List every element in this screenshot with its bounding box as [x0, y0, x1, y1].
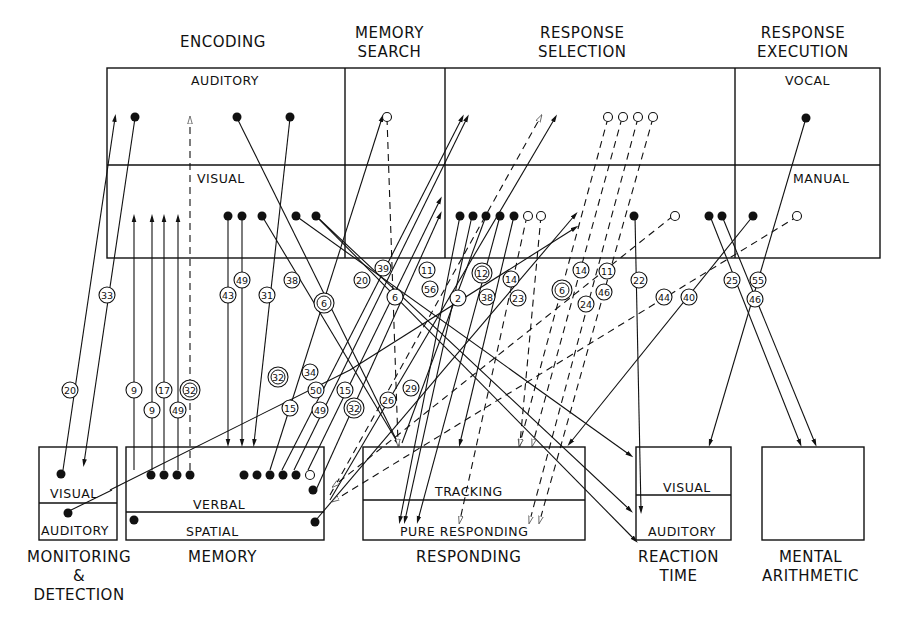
svg-text:14: 14: [505, 274, 517, 285]
svg-text:9: 9: [149, 405, 155, 416]
study-number-badge: 38: [479, 289, 495, 305]
responding-title: RESPONDING: [416, 548, 521, 567]
rt-auditory-label: AUDITORY: [648, 524, 716, 539]
svg-text:44: 44: [658, 292, 670, 303]
svg-text:49: 49: [236, 275, 248, 286]
study-number-badge: 2: [450, 290, 466, 306]
study-number-badge: 24: [578, 296, 594, 312]
study-number-badge: 20: [354, 272, 370, 288]
svg-text:32: 32: [184, 385, 196, 396]
study-number-badge: 32: [268, 367, 288, 387]
mental-arithmetic-title: MENTAL ARITHMETIC: [762, 548, 859, 586]
study-number-badge: 32: [344, 398, 364, 418]
processing-stage-matrix: [107, 68, 880, 258]
svg-text:34: 34: [304, 367, 316, 378]
memory-title: MEMORY: [188, 548, 257, 567]
svg-text:31: 31: [261, 290, 273, 301]
study-number-badge: 15: [337, 382, 353, 398]
svg-text:46: 46: [598, 287, 610, 298]
study-number-badge: 6: [314, 293, 334, 313]
rt-visual-label: VISUAL: [663, 480, 711, 495]
svg-text:33: 33: [101, 290, 113, 301]
study-number-badge: 43: [220, 287, 236, 303]
stage-memory-search: MEMORY SEARCH: [355, 24, 424, 62]
study-number-badge: 6: [387, 289, 403, 305]
row-auditory: AUDITORY: [191, 73, 259, 88]
responding-pure-label: PURE RESPONDING: [400, 524, 528, 539]
study-number-badge: 34: [302, 364, 318, 380]
memory-verbal-label: VERBAL: [193, 497, 245, 512]
monitoring-title: MONITORING & DETECTION: [27, 548, 131, 605]
svg-text:22: 22: [633, 275, 645, 286]
study-number-badge: 11: [419, 262, 435, 278]
svg-text:55: 55: [752, 275, 764, 286]
study-number-badge: 20: [62, 382, 78, 398]
svg-text:25: 25: [726, 275, 738, 286]
study-number-badge: 17: [156, 382, 172, 398]
study-number-labels: 3320991749324349313863234501549153226292…: [62, 260, 766, 418]
study-number-badge: 15: [282, 400, 298, 416]
svg-text:38: 38: [481, 292, 493, 303]
study-number-badge: 40: [681, 289, 697, 305]
svg-text:2: 2: [455, 293, 461, 304]
row-visual: VISUAL: [197, 171, 245, 186]
responding-tracking-label: TRACKING: [435, 484, 503, 499]
study-number-badge: 39: [375, 260, 391, 276]
study-number-badge: 50: [308, 382, 324, 398]
study-number-badge: 44: [656, 289, 672, 305]
study-number-badge: 22: [631, 272, 647, 288]
mental-arithmetic-box: [762, 447, 864, 540]
svg-text:15: 15: [339, 385, 351, 396]
svg-text:20: 20: [356, 275, 368, 286]
study-number-badge: 55: [750, 272, 766, 288]
study-number-badge: 31: [259, 287, 275, 303]
svg-text:23: 23: [512, 293, 524, 304]
svg-text:46: 46: [749, 294, 761, 305]
study-number-badge: 14: [573, 262, 589, 278]
svg-text:12: 12: [476, 268, 488, 279]
row-manual: MANUAL: [793, 171, 849, 186]
study-number-badge: 9: [126, 382, 142, 398]
stage-response-selection: RESPONSE SELECTION: [538, 24, 626, 62]
svg-text:11: 11: [601, 266, 613, 277]
svg-text:14: 14: [575, 265, 587, 276]
study-number-badge: 49: [170, 402, 186, 418]
svg-text:49: 49: [172, 405, 184, 416]
monitoring-visual-label: VISUAL: [50, 486, 98, 501]
study-number-badge: 46: [596, 284, 612, 300]
row-vocal: VOCAL: [785, 73, 830, 88]
monitoring-auditory-label: AUDITORY: [41, 523, 109, 538]
svg-text:20: 20: [64, 385, 76, 396]
study-number-badge: 9: [144, 402, 160, 418]
study-number-badge: 49: [312, 402, 328, 418]
study-number-badge: 6: [552, 280, 572, 300]
reaction-time-title: REACTION TIME: [638, 548, 719, 586]
svg-text:32: 32: [272, 372, 284, 383]
study-number-badge: 11: [599, 263, 615, 279]
svg-text:6: 6: [559, 285, 565, 296]
svg-text:9: 9: [131, 385, 137, 396]
svg-text:6: 6: [321, 298, 327, 309]
svg-text:17: 17: [158, 385, 170, 396]
study-number-badge: 46: [747, 291, 763, 307]
study-number-badge: 38: [284, 272, 300, 288]
study-number-badge: 26: [380, 392, 396, 408]
study-number-badge: 29: [403, 380, 419, 396]
study-number-badge: 33: [99, 287, 115, 303]
svg-text:56: 56: [424, 284, 436, 295]
stage-response-execution: RESPONSE EXECUTION: [757, 24, 849, 62]
study-number-badge: 49: [234, 272, 250, 288]
svg-text:24: 24: [580, 299, 592, 310]
svg-text:50: 50: [310, 385, 322, 396]
svg-text:49: 49: [314, 405, 326, 416]
stage-encoding: ENCODING: [180, 33, 266, 52]
svg-text:43: 43: [222, 290, 234, 301]
study-number-badge: 12: [472, 263, 492, 283]
study-number-badge: 23: [510, 290, 526, 306]
svg-text:29: 29: [405, 383, 417, 394]
svg-text:6: 6: [392, 292, 398, 303]
study-number-badge: 32: [180, 380, 200, 400]
study-number-badge: 14: [503, 271, 519, 287]
svg-text:11: 11: [421, 265, 433, 276]
svg-text:32: 32: [348, 403, 360, 414]
